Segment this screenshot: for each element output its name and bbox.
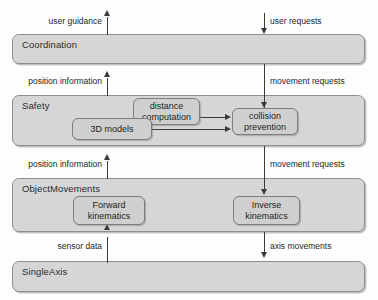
node-collision-prevention-label: collision prevention (244, 111, 286, 133)
node-collision-prevention-line2: prevention (244, 122, 286, 132)
node-collision-prevention-line1: collision (249, 111, 281, 121)
flow-user-requests-arrowhead (261, 28, 267, 34)
layer-singleaxis[interactable]: SingleAxis (12, 261, 365, 292)
node-inverse-kinematics-label: Inverse kinematics (245, 200, 288, 222)
flow-label-axis-movements: axis movements (270, 241, 331, 251)
node-distance-computation-line1: distance (150, 101, 184, 111)
node-forward-kinematics-line1: Forward (92, 200, 125, 210)
flow-user-requests-line (264, 13, 265, 29)
node-inverse-kinematics-line1: Inverse (252, 200, 282, 210)
flow-label-movement-requests-2: movement requests (270, 159, 345, 169)
flow-axis-movements-arrowhead (261, 252, 267, 258)
flow-label-user-guidance: user guidance (18, 16, 102, 26)
flow-position-information-1-arrowhead (104, 71, 110, 77)
flow-label-position-information-1: position information (8, 76, 102, 86)
flow-axis-movements-line (264, 232, 265, 253)
flow-position-information-1-line (107, 78, 108, 96)
flow-distance-to-collision-line (200, 117, 226, 118)
flow-movement-requests-2-line (264, 146, 265, 192)
node-forward-kinematics-line2: kinematics (88, 211, 131, 221)
flow-user-guidance-line (107, 17, 108, 35)
node-3d-models[interactable]: 3D models (72, 118, 152, 140)
flow-position-information-2-arrowhead (104, 154, 110, 160)
layer-safety-label: Safety (22, 100, 50, 111)
flow-position-information-2-line (107, 161, 108, 179)
node-collision-prevention[interactable]: collision prevention (232, 108, 298, 135)
flow-label-user-requests: user requests (270, 16, 322, 26)
flow-sensor-data-line (107, 237, 108, 263)
flow-movement-requests-2-arrowhead (261, 189, 267, 195)
layer-coordination-label: Coordination (22, 39, 77, 50)
flow-label-position-information-2: position information (8, 159, 102, 169)
layer-coordination[interactable]: Coordination (12, 34, 365, 64)
node-3d-models-label: 3D models (90, 124, 133, 135)
flow-user-guidance-arrowhead (104, 10, 110, 16)
node-inverse-kinematics-line2: kinematics (245, 211, 288, 221)
flow-models-to-collision-line (152, 129, 226, 130)
node-forward-kinematics[interactable]: Forward kinematics (73, 196, 145, 225)
layer-singleaxis-label: SingleAxis (22, 266, 67, 277)
layer-objectmovements-label: ObjectMovements (22, 183, 100, 194)
node-forward-kinematics-label: Forward kinematics (88, 200, 131, 222)
flow-label-sensor-data: sensor data (28, 241, 102, 251)
layer-objectmovements[interactable]: ObjectMovements (12, 178, 365, 232)
flow-models-to-collision-arrowhead (225, 126, 231, 132)
flow-distance-to-collision-arrowhead (225, 114, 231, 120)
diagram-canvas: user guidance user requests Coordination… (0, 0, 378, 300)
node-inverse-kinematics[interactable]: Inverse kinematics (233, 196, 300, 225)
flow-label-movement-requests-1: movement requests (270, 76, 345, 86)
